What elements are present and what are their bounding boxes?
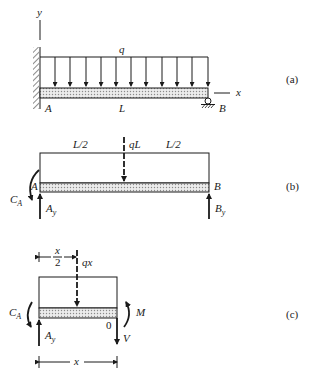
beam-c [39, 308, 117, 318]
point-a-label: A [44, 102, 52, 114]
shear-label-v: V [123, 332, 131, 344]
beam-b [40, 183, 209, 192]
right-span-label: L/2 [165, 138, 181, 150]
left-span-label: L/2 [72, 138, 88, 150]
reaction-label-ay-c: Ay [44, 329, 56, 344]
half-dim-denominator: 2 [55, 256, 61, 268]
beam-a [40, 88, 208, 98]
caption-c: (c) [286, 308, 299, 321]
distributed-load-arrows [55, 57, 208, 86]
load-label-q: q [119, 43, 125, 55]
resultant-label-qx: qx [82, 256, 93, 268]
point-b-label: B [219, 102, 226, 114]
y-axis-label: y [36, 6, 42, 18]
moment-label-m: M [135, 306, 146, 318]
cut-point-label: 0 [106, 319, 112, 331]
resultant-label-ql: qL [129, 138, 141, 150]
ground-hatch [202, 105, 214, 109]
roller-support [205, 98, 211, 104]
moment-arrow-ca-c [28, 302, 32, 327]
reaction-label-ay: Ay [45, 202, 57, 217]
panel-c: x 2 qx CA Ay 0 M V x (c) [9, 244, 299, 368]
point-b-label-b: B [214, 180, 221, 192]
x-dim-label: x [73, 355, 79, 367]
fixed-wall-hatch [33, 47, 39, 109]
reaction-label-by: By [215, 202, 226, 217]
load-box-c [39, 277, 117, 308]
caption-b: (b) [286, 180, 299, 193]
panel-a: y q x [33, 6, 299, 114]
caption-a: (a) [286, 73, 299, 86]
moment-arrow-m [124, 302, 129, 327]
length-label-l: L [118, 102, 125, 114]
half-dim-numerator: x [54, 244, 60, 256]
x-axis-label: x [235, 86, 241, 98]
moment-label-ca-c: CA [9, 306, 21, 321]
moment-label-ca: CA [10, 193, 22, 208]
panel-b: L/2 L/2 qL A B CA Ay By (b) [10, 137, 299, 219]
beam-diagram: y q x [0, 0, 310, 385]
